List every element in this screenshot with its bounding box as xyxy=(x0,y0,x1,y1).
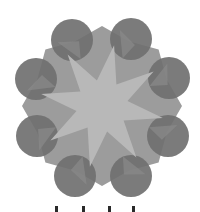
mark xyxy=(82,206,85,212)
circle-5 xyxy=(16,115,58,157)
circle-1 xyxy=(51,19,93,61)
rosette-figure xyxy=(0,0,200,212)
circle-4 xyxy=(148,57,190,99)
bottom-marks xyxy=(55,206,135,212)
mark xyxy=(108,206,111,212)
mark xyxy=(132,206,135,212)
circle-8 xyxy=(110,155,152,197)
circle-2 xyxy=(110,18,152,60)
circle-6 xyxy=(147,115,189,157)
mark xyxy=(55,206,58,212)
